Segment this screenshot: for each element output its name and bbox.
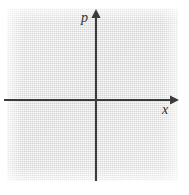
x-axis <box>4 95 179 104</box>
figure-root: p x <box>0 0 189 195</box>
p-axis <box>91 9 100 181</box>
p-axis-arrowhead-icon <box>91 9 100 18</box>
x-axis-arrowhead-icon <box>170 95 179 104</box>
axes-group <box>0 0 189 195</box>
x-axis-label: x <box>162 103 168 117</box>
p-axis-label: p <box>81 11 88 25</box>
